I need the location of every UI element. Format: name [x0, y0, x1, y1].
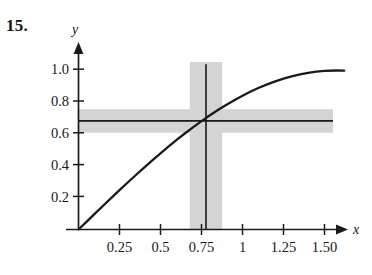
x-tick-label-5: 1.50	[312, 239, 337, 255]
y-tick-label-1: 0.4	[51, 157, 70, 173]
x-axis-arrowhead	[336, 225, 348, 235]
figure-container: 15. 0.25 0.5 0.75 1	[0, 0, 372, 275]
y-tick-label-2: 0.6	[51, 125, 69, 141]
y-tick-label-0: 0.2	[51, 189, 69, 205]
y-tick-label-3: 0.8	[51, 93, 69, 109]
x-tick-label-2: 0.75	[189, 239, 214, 255]
y-axis-label: y	[70, 22, 79, 37]
x-tick-label-1: 0.5	[151, 239, 169, 255]
x-tick-label-4: 1.25	[271, 239, 296, 255]
x-tick-label-3: 1	[239, 239, 246, 255]
y-axis-arrowhead	[74, 42, 84, 54]
x-tick-label-0: 0.25	[107, 239, 132, 255]
x-axis-label: x	[352, 222, 360, 237]
y-tick-label-4: 1.0	[51, 61, 69, 77]
plot-area: 0.25 0.5 0.75 1 1.25 1.50 0.2 0.4 0.6 0.…	[0, 0, 372, 275]
